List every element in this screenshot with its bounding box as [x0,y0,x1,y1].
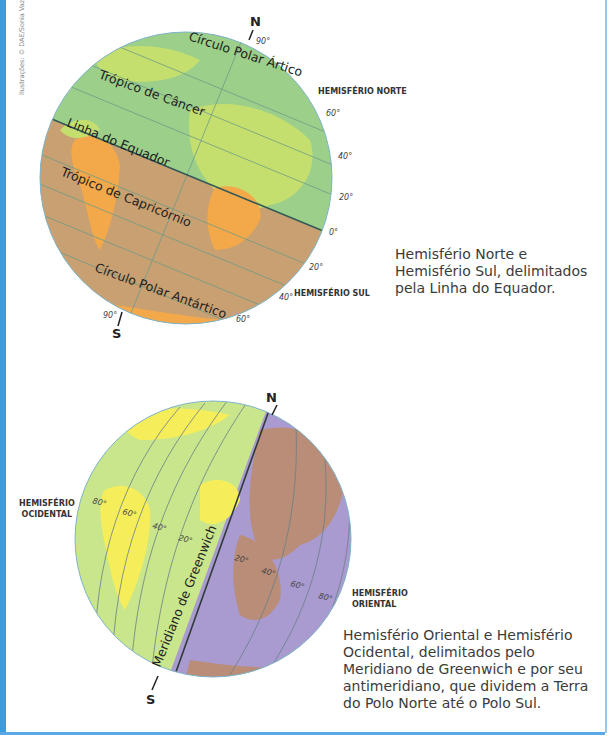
lat-40s: 40° [279,293,293,302]
lat-60n: 60° [326,109,340,118]
south-pole-degree: 90° [103,311,117,320]
lat-20s: 20° [309,263,323,272]
label-oriental-line2: ORIENTAL [352,599,408,610]
lat-60s: 60° [236,315,250,324]
lat-20n: 20° [339,193,353,202]
caption-north-south: Hemisfério Norte e Hemisfério Sul, delim… [395,246,600,297]
south-pole-label: S [112,326,121,341]
label-hemisferio-ocidental: HEMISFÉRIO OCIDENTAL [19,498,75,520]
label-hemisferio-oriental: HEMISFÉRIO ORIENTAL [352,588,408,610]
label-ocidental-line1: HEMISFÉRIO [19,498,75,509]
south-pole-label-2: S [146,692,155,707]
label-hemisferio-sul: HEMISFÉRIO SUL [294,288,370,299]
lat-40n: 40° [338,152,352,161]
label-oriental-line1: HEMISFÉRIO [352,588,408,599]
north-pole-label-2: N [266,390,277,405]
north-pole-label: N [250,14,261,29]
lat-0: 0° [329,228,338,237]
label-ocidental-line2: OCIDENTAL [19,509,75,520]
caption-east-west: Hemisfério Oriental e Hemisfério Ocident… [343,627,605,712]
north-pole-degree: 90° [256,37,270,46]
label-hemisferio-norte: HEMISFÉRIO NORTE [318,86,407,97]
